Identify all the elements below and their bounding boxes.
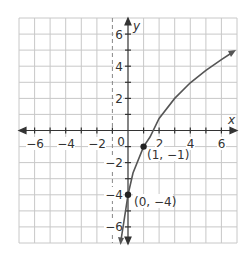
function-curve — [121, 52, 233, 240]
y-axis-label: y — [132, 19, 141, 33]
y-tick-label: 6 — [115, 28, 123, 42]
point-label-0-neg4: (0, −4) — [134, 195, 176, 209]
x-tick-label: −2 — [88, 137, 106, 151]
x-tick-label: 6 — [218, 137, 226, 151]
x-axis-label: x — [227, 113, 236, 127]
x-tick-labels: −6 −4 −2 0 2 4 6 — [26, 135, 226, 151]
y-tick-label: −2 — [105, 156, 123, 170]
axes — [19, 18, 237, 244]
y-tick-label: 4 — [115, 60, 123, 74]
y-tick-label: 2 — [115, 92, 123, 106]
graph: −6 −4 −2 0 2 4 6 6 4 2 −2 −4 −6 y x (1, … — [0, 0, 247, 259]
y-tick-label: −4 — [105, 188, 123, 202]
point-1-neg1 — [140, 143, 146, 149]
x-tick-label: −6 — [26, 137, 44, 151]
curve-arrow-end — [228, 50, 236, 57]
x-tick-label: −4 — [57, 137, 75, 151]
curve-arrow-start — [118, 237, 124, 245]
y-tick-label: −6 — [105, 220, 123, 234]
point-0-neg4 — [125, 192, 131, 198]
origin-label: 0 — [117, 135, 125, 149]
point-label-1-neg1: (1, −1) — [147, 148, 189, 162]
